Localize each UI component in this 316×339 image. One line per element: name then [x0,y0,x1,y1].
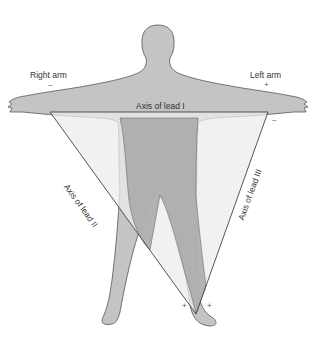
lead-1-axis-label: Axis of lead I [136,101,185,111]
left-arm-negative-sign: – [272,115,276,124]
einthoven-diagram: Right arm – Left arm + – Axis of lead I … [0,0,316,339]
left-arm-positive-sign: + [264,80,269,89]
body-figure-graphic [0,0,316,339]
right-arm-negative-sign: – [48,80,52,89]
right-arm-label: Right arm [30,70,67,80]
left-leg-positive-sign-1: + [182,301,187,310]
left-arm-label: Left arm [250,70,281,80]
left-leg-positive-sign-2: + [207,301,212,310]
